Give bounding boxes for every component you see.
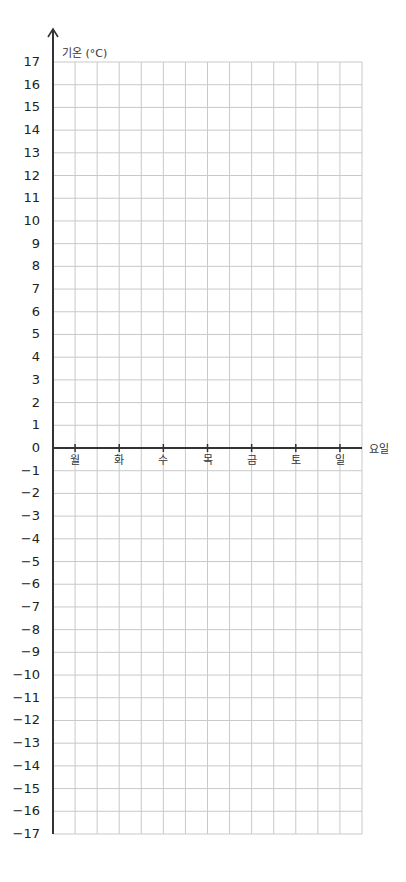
y-tick-label: 16 <box>0 78 40 92</box>
y-tick-label: −13 <box>0 736 40 750</box>
y-tick-label: 2 <box>0 396 40 410</box>
y-tick-label: 5 <box>0 327 40 341</box>
y-tick-label: 1 <box>0 418 40 432</box>
x-tick-label: 토 <box>286 455 306 467</box>
x-tick-label: 일 <box>330 455 350 467</box>
y-tick-label: −8 <box>0 623 40 637</box>
y-tick-label: 14 <box>0 123 40 137</box>
x-tick-label: 목 <box>198 455 218 467</box>
temperature-chart: 17161514131211109876543210−1−2−3−4−5−6−7… <box>0 0 406 882</box>
y-tick-label: 15 <box>0 100 40 114</box>
y-tick-label: −6 <box>0 577 40 591</box>
y-tick-label: −1 <box>0 464 40 478</box>
chart-grid <box>0 0 406 882</box>
y-tick-label: −15 <box>0 782 40 796</box>
y-tick-label: −9 <box>0 645 40 659</box>
y-tick-label: −16 <box>0 804 40 818</box>
y-tick-label: −11 <box>0 691 40 705</box>
y-tick-label: 12 <box>0 169 40 183</box>
y-tick-label: −17 <box>0 827 40 841</box>
y-tick-label: −3 <box>0 509 40 523</box>
y-tick-label: −4 <box>0 532 40 546</box>
y-tick-label: −7 <box>0 600 40 614</box>
y-tick-label: 17 <box>0 55 40 69</box>
y-tick-label: 13 <box>0 146 40 160</box>
x-tick-label: 화 <box>109 455 129 467</box>
y-axis-label: 기온 (°C) <box>62 44 107 60</box>
y-tick-label: −14 <box>0 759 40 773</box>
y-tick-label: −12 <box>0 713 40 727</box>
y-tick-label: 0 <box>0 441 40 455</box>
y-tick-label: 7 <box>0 282 40 296</box>
y-tick-label: −2 <box>0 486 40 500</box>
y-tick-label: −10 <box>0 668 40 682</box>
y-tick-label: −5 <box>0 555 40 569</box>
y-tick-label: 9 <box>0 237 40 251</box>
x-axis-label: 요일 <box>369 440 389 456</box>
y-tick-label: 3 <box>0 373 40 387</box>
y-tick-label: 6 <box>0 305 40 319</box>
y-tick-label: 8 <box>0 259 40 273</box>
y-tick-label: 10 <box>0 214 40 228</box>
x-tick-label: 수 <box>153 455 173 467</box>
x-tick-label: 월 <box>65 455 85 467</box>
y-tick-label: 4 <box>0 350 40 364</box>
x-tick-label: 금 <box>242 455 262 467</box>
y-tick-label: 11 <box>0 191 40 205</box>
